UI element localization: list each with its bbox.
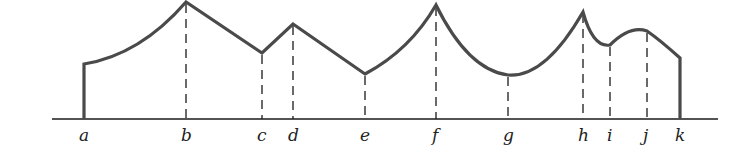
label-a: a	[79, 125, 89, 145]
function-graph-diagram: a b c d e f g h i j k	[0, 0, 733, 151]
label-h: h	[578, 125, 589, 145]
label-f: f	[430, 125, 441, 145]
label-c: c	[257, 125, 267, 145]
function-curve	[84, 2, 680, 119]
label-g: g	[503, 125, 514, 145]
label-i: i	[607, 125, 612, 145]
label-k: k	[675, 125, 685, 145]
label-b: b	[181, 125, 192, 145]
label-d: d	[288, 125, 299, 145]
label-j: j	[639, 125, 649, 145]
point-labels: a b c d e f g h i j k	[79, 125, 685, 145]
label-e: e	[360, 125, 370, 145]
